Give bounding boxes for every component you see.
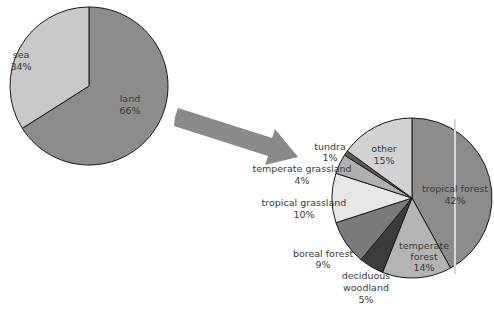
label-other: other bbox=[371, 143, 396, 154]
label-tundra: tundra bbox=[314, 141, 346, 152]
label-boreal: boreal forest bbox=[293, 248, 354, 259]
label-sea: sea bbox=[13, 49, 30, 60]
label-boreal-pct: 9% bbox=[315, 259, 330, 270]
label-land: land bbox=[120, 93, 141, 104]
label-land-pct: 66% bbox=[119, 105, 140, 116]
label-tropical-grassland-pct: 10% bbox=[293, 209, 314, 220]
chart-canvas: sea 34% land 66% tropical forest 42% tem… bbox=[0, 0, 494, 315]
pie-land-sea bbox=[10, 7, 168, 165]
label-tundra-pct: 1% bbox=[322, 152, 337, 163]
label-deciduous-2: woodland bbox=[343, 282, 389, 293]
label-temperate-forest-2: forest bbox=[410, 251, 438, 262]
label-temperate-forest: temperate bbox=[399, 240, 449, 251]
label-temperate-forest-pct: 14% bbox=[413, 262, 434, 273]
label-tropical-forest-pct: 42% bbox=[444, 195, 465, 206]
label-sea-pct: 34% bbox=[10, 61, 31, 72]
arrow-icon bbox=[174, 108, 298, 165]
label-tropical-grassland: tropical grassland bbox=[262, 197, 347, 208]
label-temperate-grassland: temperate grassland bbox=[252, 163, 351, 174]
label-other-pct: 15% bbox=[373, 155, 394, 166]
label-tropical-forest: tropical forest bbox=[422, 183, 488, 194]
label-temperate-grassland-pct: 4% bbox=[294, 175, 309, 186]
label-deciduous-pct: 5% bbox=[358, 294, 373, 305]
label-deciduous: deciduous bbox=[342, 270, 391, 281]
